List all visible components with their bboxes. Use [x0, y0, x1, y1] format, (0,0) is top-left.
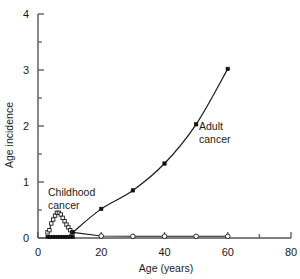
series-childhood-baseline: [46, 235, 75, 238]
data-point-marker: [99, 234, 104, 239]
data-point-marker: [100, 207, 103, 210]
y-tick-label: 2: [23, 120, 29, 132]
y-tick-label: 1: [23, 176, 29, 188]
x-tick-label: 60: [222, 246, 234, 258]
x-tick-label: 40: [158, 246, 170, 258]
data-point-marker: [63, 220, 66, 223]
x-tick-label: 20: [95, 246, 107, 258]
childhood-cancer-label-line2: cancer: [48, 199, 80, 211]
data-point-marker: [50, 222, 53, 225]
data-point-marker: [61, 216, 64, 219]
age-incidence-chart: 01234 020406080 Age incidence Age (years…: [0, 0, 300, 279]
data-point-marker: [71, 235, 74, 238]
adult-cancer-label-line2: cancer: [199, 133, 231, 145]
x-tick-label: 80: [285, 246, 297, 258]
y-axis-title: Age incidence: [3, 102, 15, 168]
data-point-marker: [51, 218, 54, 221]
chart-canvas: 01234 020406080 Age incidence Age (years…: [0, 0, 300, 279]
data-point-marker: [71, 231, 74, 234]
data-point-marker: [163, 162, 166, 165]
data-point-marker: [131, 189, 134, 192]
data-point-marker: [162, 234, 167, 239]
data-point-marker: [59, 213, 62, 216]
x-axis-title: Age (years): [139, 262, 193, 274]
data-point-marker: [226, 67, 229, 70]
data-point-marker: [194, 123, 197, 126]
y-tick-label: 0: [23, 232, 29, 244]
childhood-baseline-markers: [46, 235, 75, 238]
data-point-marker: [194, 234, 199, 239]
data-point-marker: [225, 234, 230, 239]
adult-cancer-label-line1: Adult: [199, 120, 223, 132]
y-tick-label: 3: [23, 64, 29, 76]
y-tick-label: 4: [23, 8, 29, 20]
data-point-marker: [131, 234, 136, 239]
x-tick-label: 0: [35, 246, 41, 258]
childhood-cancer-label-line1: Childhood: [48, 186, 95, 198]
chart-background: [0, 0, 300, 279]
data-point-marker: [48, 228, 51, 231]
